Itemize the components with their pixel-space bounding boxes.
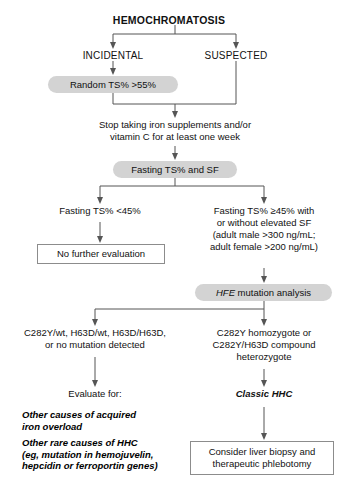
other-acquired-line-1: Other causes of acquired (22, 409, 182, 421)
arrowhead-fasting-low (97, 197, 103, 204)
arrowhead-genotype-pos (261, 319, 267, 326)
page-title: HEMOCHROMATOSIS (0, 14, 338, 26)
node-fasting-panel: Fasting TS% and SF (113, 161, 237, 178)
fasting-low-text: Fasting TS% <45% (59, 205, 140, 216)
arrowhead-incidental (110, 42, 116, 49)
genotype-neg-line-1: C282Y/wt, H63D/wt, H63D/H63D, (3, 327, 187, 339)
genotype-pos-line-2: C282Y/H63D compound (186, 339, 338, 351)
arrowhead-suspected (233, 42, 239, 49)
node-classic-hhc: Classic HHC (200, 388, 328, 400)
other-rare-line-3: hepcidin or ferroportin genes) (22, 460, 190, 472)
genotype-neg-line-2: or no mutation detected (3, 339, 187, 351)
evaluate-for-text: Evaluate for: (68, 388, 121, 399)
node-other-rare-causes: Other rare causes of HHC (eg, mutation i… (22, 437, 190, 472)
consider-biopsy-line-2: therapeutic phlebotomy (213, 458, 312, 470)
node-consider-biopsy: Consider liver biopsy and therapeutic ph… (190, 441, 334, 475)
node-no-further-evaluation: No further evaluation (37, 244, 165, 264)
arrowhead-consider-biopsy (261, 433, 267, 440)
fasting-high-line-1: Fasting TS% ≥45% with (186, 205, 338, 217)
fasting-high-line-2: or without elevated SF (186, 217, 338, 229)
node-fasting-low: Fasting TS% <45% (22, 205, 178, 217)
node-random-ts: Random TS% >55% (48, 76, 178, 93)
hfe-gene-text: HFE (216, 287, 235, 298)
genotype-pos-line-1: C282Y homozygote or (186, 327, 338, 339)
other-acquired-line-2: iron overload (22, 421, 182, 433)
no-further-eval-text: No further evaluation (57, 248, 145, 260)
arrowhead-no-further (97, 236, 103, 243)
consider-biopsy-line-1: Consider liver biopsy and (209, 446, 316, 458)
arrowhead-hfe (261, 276, 267, 283)
stop-iron-line-1: Stop taking iron supplements and/or (39, 119, 311, 131)
hfe-rest-text: mutation analysis (235, 287, 311, 298)
arrowhead-random-ts (110, 68, 116, 75)
classic-hhc-text: Classic HHC (236, 388, 293, 399)
genotype-pos-line-3: heterozygote (186, 351, 338, 363)
arrowhead-fasting-high (261, 197, 267, 204)
node-other-acquired-causes: Other causes of acquired iron overload (22, 409, 182, 432)
branch-label-suspected: SUSPECTED (176, 50, 296, 62)
other-rare-line-1: Other rare causes of HHC (22, 437, 190, 449)
node-hfe-mutation-analysis: HFE mutation analysis (195, 284, 332, 301)
node-genotype-positive: C282Y homozygote or C282Y/H63D compound … (186, 327, 338, 363)
arrowhead-evaluate-for (92, 380, 98, 387)
node-evaluate-for: Evaluate for: (25, 388, 165, 400)
fasting-high-line-4: adult female >200 ng/mL) (186, 241, 338, 253)
node-fasting-high: Fasting TS% ≥45% with or without elevate… (186, 205, 338, 253)
node-stop-iron: Stop taking iron supplements and/or vita… (39, 119, 311, 143)
random-ts-text: Random TS% >55% (70, 79, 156, 90)
suspected-text: SUSPECTED (205, 50, 268, 61)
arrowhead-stop-iron (172, 111, 178, 118)
other-rare-line-2: (eg, mutation in hemojuvelin, (22, 449, 190, 461)
node-genotype-negative: C282Y/wt, H63D/wt, H63D/H63D, or no muta… (3, 327, 187, 351)
fasting-high-line-3: (adult male >300 ng/mL; (186, 229, 338, 241)
title-text: HEMOCHROMATOSIS (113, 14, 225, 26)
arrowhead-fasting-panel (172, 153, 178, 160)
branch-label-incidental: INCIDENTAL (53, 50, 173, 62)
arrowhead-classic-hhc (261, 380, 267, 387)
fasting-panel-text: Fasting TS% and SF (131, 164, 218, 175)
incidental-text: INCIDENTAL (83, 50, 144, 61)
stop-iron-line-2: vitamin C for at least one week (39, 131, 311, 143)
arrowhead-genotype-neg (92, 319, 98, 326)
